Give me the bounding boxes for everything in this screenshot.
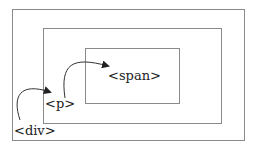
arrows xyxy=(0,0,254,151)
arrow-div-to-p xyxy=(17,89,50,120)
arrow-p-to-span xyxy=(64,62,108,98)
